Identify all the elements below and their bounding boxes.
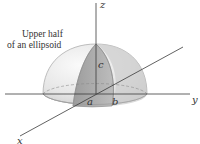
y-axis-label: y [191,94,198,105]
b-label: b [112,96,118,107]
caption-line-1: Upper half [22,29,64,39]
caption-line-2: of an ellipsoid [7,40,62,50]
z-axis-label: z [99,0,106,10]
x-axis-label: x [17,135,23,144]
a-label: a [87,96,93,107]
ellipsoid-diagram: z y x c a b Upper half of an ellipsoid [0,0,200,144]
c-label: c [98,59,104,70]
